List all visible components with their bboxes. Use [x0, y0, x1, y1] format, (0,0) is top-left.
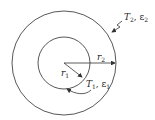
- inner-surface-label: T1, ε1: [86, 79, 110, 90]
- inner-leader: [67, 89, 91, 94]
- r1-label: r1: [61, 68, 69, 79]
- concentric-spheres-diagram: T2, ε2 r2 r1 T1, ε1: [0, 0, 155, 120]
- outer-surface-label: T2, ε2: [124, 12, 148, 23]
- outer-leader: [112, 21, 122, 32]
- r2-label: r2: [97, 52, 105, 63]
